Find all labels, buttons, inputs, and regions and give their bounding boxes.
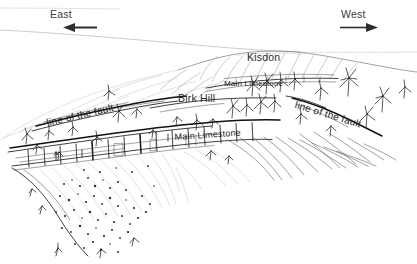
label-kisdon: Kisdon [247, 51, 280, 63]
compass-label-west: West [341, 8, 366, 20]
arrow-left-icon [63, 23, 97, 32]
geological-sketch-figure: .ink { fill: none; stroke: #1d1d1d; stro… [0, 0, 417, 264]
scar-detail-marks [54, 134, 168, 160]
arrow-right-icon [340, 23, 378, 32]
scree-stipple [55, 165, 155, 253]
label-birk-hill: Birk Hill [178, 92, 215, 104]
label-main-limestone-upper: Main Limestone [224, 79, 283, 88]
compass-label-east: East [50, 8, 72, 20]
